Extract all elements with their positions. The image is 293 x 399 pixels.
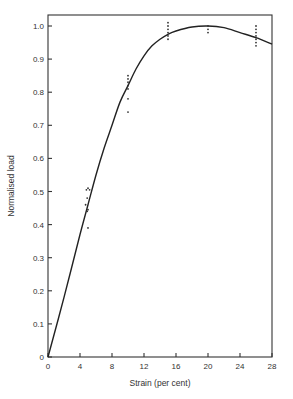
y-tick-label: 0.1 <box>33 320 45 329</box>
y-tick-label: 0.6 <box>33 154 45 163</box>
y-axis: 00.10.20.30.40.50.60.70.80.91.0 <box>33 22 52 362</box>
x-tick-label: 16 <box>172 362 181 371</box>
data-point <box>167 22 169 24</box>
data-point <box>255 25 257 27</box>
x-tick-label: 24 <box>236 362 245 371</box>
y-tick-label: 1.0 <box>33 22 45 31</box>
data-point <box>86 210 88 212</box>
data-point <box>167 28 169 30</box>
data-point <box>167 32 169 34</box>
y-tick-label: 0.7 <box>33 121 45 130</box>
y-tick-label: 0.9 <box>33 55 45 64</box>
data-point <box>127 111 129 113</box>
data-point <box>127 81 129 83</box>
y-tick-label: 0 <box>40 353 45 362</box>
data-point <box>127 75 129 77</box>
data-point <box>255 32 257 34</box>
chart: 00.10.20.30.40.50.60.70.80.91.0 04812162… <box>0 0 293 399</box>
data-point <box>207 32 209 34</box>
data-point <box>127 88 129 90</box>
data-point <box>255 42 257 44</box>
data-point <box>167 38 169 40</box>
y-axis-label: Normalised load <box>6 155 16 217</box>
x-axis: 0481216202428 <box>46 353 277 371</box>
curve-path <box>48 26 272 357</box>
data-points <box>85 22 257 229</box>
data-point <box>87 209 89 211</box>
x-tick-label: 0 <box>46 362 51 371</box>
data-point <box>167 35 169 37</box>
x-axis-label: Strain (per cent) <box>130 378 191 388</box>
data-point <box>207 28 209 30</box>
data-point <box>127 98 129 100</box>
data-point <box>255 35 257 37</box>
x-tick-label: 20 <box>204 362 213 371</box>
data-point <box>85 204 87 206</box>
x-tick-label: 12 <box>140 362 149 371</box>
data-point <box>87 227 89 229</box>
data-point <box>127 85 129 87</box>
data-point <box>255 45 257 47</box>
y-tick-label: 0.2 <box>33 287 45 296</box>
x-tick-label: 4 <box>78 362 83 371</box>
data-point <box>167 25 169 27</box>
data-point <box>207 25 209 27</box>
data-point <box>255 28 257 30</box>
data-point <box>255 38 257 40</box>
y-tick-label: 0.3 <box>33 254 45 263</box>
y-tick-label: 0.8 <box>33 88 45 97</box>
y-tick-label: 0.5 <box>33 188 45 197</box>
data-point <box>86 189 88 191</box>
data-point <box>127 78 129 80</box>
data-point <box>87 187 89 189</box>
fitted-curve <box>48 26 272 357</box>
x-tick-label: 8 <box>110 362 115 371</box>
data-point <box>89 189 91 191</box>
x-tick-label: 28 <box>268 362 277 371</box>
y-tick-label: 0.4 <box>33 221 45 230</box>
plot-border <box>48 15 272 357</box>
data-point <box>86 197 88 199</box>
plot-frame <box>48 15 272 357</box>
